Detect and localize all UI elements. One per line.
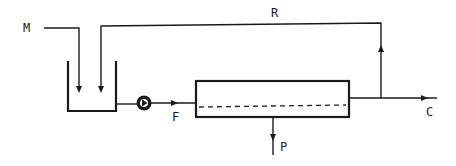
recycle-arrow-down-icon [98,86,104,93]
label-recycle: R [271,6,279,20]
label-permeate: P [280,140,287,154]
membrane-module [196,81,349,117]
recycle-stream-line [101,23,381,98]
feed-tank [68,61,116,111]
label-concentrate: C [426,105,433,119]
pump-icon [137,96,152,111]
feed-arrow-icon [171,100,178,106]
label-makeup: M [23,21,30,35]
membrane-line [199,105,346,107]
permeate-arrow-icon [270,134,276,141]
makeup-arrow-icon [76,86,82,93]
makeup-stream-line [44,28,79,90]
label-feed: F [172,110,179,124]
process-diagram: M R F C P [0,0,456,166]
recycle-arrow-up-icon [378,45,384,52]
concentrate-arrow-icon [421,95,428,101]
